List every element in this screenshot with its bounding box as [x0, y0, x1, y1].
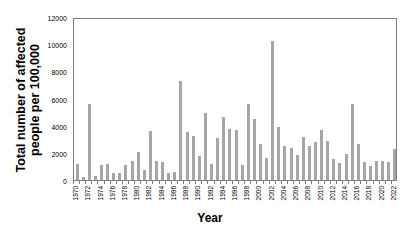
- x-tick-mark: [177, 181, 178, 184]
- x-tick-mark: [366, 181, 367, 184]
- bar-1973: [94, 176, 97, 180]
- bar-1984: [161, 162, 164, 180]
- bar-2018: [369, 166, 372, 180]
- x-tick-label: 2020: [378, 186, 385, 200]
- bar-1974: [100, 165, 103, 180]
- bar-2002: [271, 41, 274, 180]
- y-axis-label-line-1: Total number of affected: [14, 15, 28, 185]
- x-tick-label: 2000: [255, 186, 262, 200]
- x-tick-mark: [232, 181, 233, 184]
- bar-1971: [82, 177, 85, 180]
- y-tick-label: 8000: [51, 69, 67, 76]
- x-tick-mark: [73, 181, 74, 184]
- bar-2001: [265, 158, 268, 180]
- plot-area: [73, 18, 397, 181]
- bar-2003: [277, 127, 280, 180]
- x-tick-mark: [128, 181, 129, 184]
- x-tick-label: 1992: [207, 186, 214, 200]
- x-tick-mark: [287, 181, 288, 184]
- bar-2004: [283, 146, 286, 180]
- x-tick-mark: [373, 181, 374, 184]
- x-tick-mark: [165, 181, 166, 184]
- x-tick-label: 2002: [268, 186, 275, 200]
- x-axis-label: Year: [197, 211, 222, 225]
- bar-1999: [253, 119, 256, 180]
- bar-2019: [375, 161, 378, 180]
- x-tick-mark: [189, 181, 190, 184]
- x-tick-mark: [238, 181, 239, 184]
- bar-1982: [149, 131, 152, 180]
- x-tick-label: 1980: [133, 186, 140, 200]
- x-tick-mark: [171, 181, 172, 184]
- y-tick-label: 0: [63, 178, 67, 185]
- x-tick-mark: [85, 181, 86, 184]
- bar-1970: [76, 164, 79, 180]
- bar-2006: [296, 155, 299, 180]
- x-tick-label: 1976: [109, 186, 116, 200]
- x-tick-mark: [330, 181, 331, 184]
- bar-2010: [320, 130, 323, 180]
- bar-2016: [357, 144, 360, 180]
- x-tick-mark: [244, 181, 245, 184]
- x-tick-mark: [379, 181, 380, 184]
- bar-1979: [131, 161, 134, 180]
- bar-1983: [155, 161, 158, 180]
- x-tick-label: 2004: [280, 186, 287, 200]
- x-tick-mark: [293, 181, 294, 184]
- bar-1995: [228, 129, 231, 180]
- x-tick-label: 2016: [353, 186, 360, 200]
- x-tick-mark: [354, 181, 355, 184]
- x-tick-mark: [183, 181, 184, 184]
- x-tick-label: 2008: [304, 186, 311, 200]
- x-tick-label: 1988: [182, 186, 189, 200]
- bar-1991: [204, 113, 207, 181]
- x-tick-mark: [281, 181, 282, 184]
- x-tick-label: 1994: [219, 186, 226, 200]
- bar-1985: [167, 173, 170, 180]
- x-tick-label: 1986: [170, 186, 177, 200]
- bar-2007: [302, 137, 305, 180]
- y-tick-label: 6000: [51, 96, 67, 103]
- bar-1994: [222, 117, 225, 180]
- x-tick-mark: [269, 181, 270, 184]
- x-tick-label: 1984: [158, 186, 165, 200]
- x-tick-label: 2012: [329, 186, 336, 200]
- x-tick-mark: [299, 181, 300, 184]
- y-axis-label-line-2: people per 100,000: [28, 15, 42, 185]
- bar-1977: [118, 173, 121, 180]
- x-tick-mark: [91, 181, 92, 184]
- bar-2009: [314, 142, 317, 180]
- bar-1998: [247, 104, 250, 180]
- y-tick-label: 4000: [51, 123, 67, 130]
- x-tick-label: 2010: [317, 186, 324, 200]
- x-tick-mark: [110, 181, 111, 184]
- bar-1996: [235, 130, 238, 180]
- x-tick-mark: [348, 181, 349, 184]
- bar-2015: [351, 104, 354, 180]
- y-tick-label: 10000: [48, 42, 67, 49]
- bar-2012: [332, 159, 335, 180]
- x-tick-mark: [140, 181, 141, 184]
- bar-1987: [179, 81, 182, 180]
- x-tick-mark: [305, 181, 306, 184]
- x-tick-label: 1978: [121, 186, 128, 200]
- x-tick-mark: [275, 181, 276, 184]
- bar-1976: [112, 173, 115, 180]
- x-tick-mark: [134, 181, 135, 184]
- bar-2011: [326, 141, 329, 180]
- bar-1975: [106, 164, 109, 180]
- bar-1972: [88, 104, 91, 180]
- x-tick-mark: [250, 181, 251, 184]
- x-tick-mark: [152, 181, 153, 184]
- y-axis-label: Total number of affected people per 100,…: [14, 15, 42, 185]
- x-tick-mark: [116, 181, 117, 184]
- x-tick-mark: [201, 181, 202, 184]
- x-tick-label: 1996: [231, 186, 238, 200]
- bar-1997: [241, 165, 244, 180]
- x-tick-label: 1974: [97, 186, 104, 200]
- x-tick-mark: [195, 181, 196, 184]
- bar-2021: [387, 162, 390, 180]
- x-tick-mark: [263, 181, 264, 184]
- x-tick-mark: [318, 181, 319, 184]
- x-tick-label: 2014: [341, 186, 348, 200]
